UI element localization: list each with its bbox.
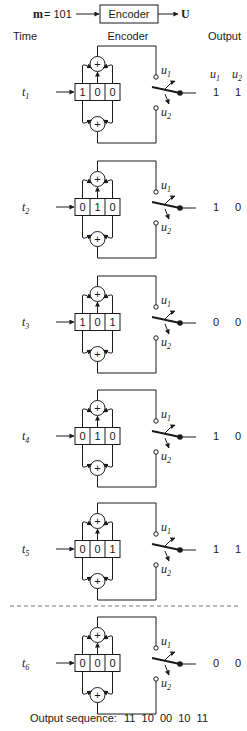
rotation-arrow-icon <box>165 652 175 660</box>
u2-terminal <box>154 221 158 225</box>
time-step-block: t1100++u1u211 <box>22 46 241 143</box>
register-cell: 1 <box>94 201 100 213</box>
u2-terminal <box>154 563 158 567</box>
u2-column-label: u2 <box>232 67 242 83</box>
u2-wire <box>98 454 157 487</box>
time-label: t5 <box>22 542 29 558</box>
rotation-arrow-icon <box>165 324 169 334</box>
rotation-arrow-icon <box>165 538 175 546</box>
header-encoder-flow: m = 101 Encoder U <box>33 5 190 23</box>
u2-wire <box>98 340 157 373</box>
plus-icon: + <box>94 689 100 701</box>
plus-icon: + <box>94 348 100 360</box>
output-sequence-value: 11 10 00 10 11 <box>124 712 208 724</box>
plus-icon: + <box>94 173 100 185</box>
register-cell: 0 <box>79 657 85 669</box>
output-u1-value: 1 <box>213 86 219 98</box>
rotation-arrow-icon <box>165 311 175 319</box>
u1-terminal-label: u1 <box>161 293 171 309</box>
u2-terminal-label: u2 <box>161 676 171 692</box>
register-cell: 0 <box>79 543 85 555</box>
plus-icon: + <box>94 118 100 130</box>
output-u1-value: 1 <box>213 430 219 442</box>
rotation-arrow-icon <box>165 665 169 675</box>
rotation-arrow-icon <box>165 81 175 89</box>
u1-terminal <box>154 646 158 650</box>
column-headers: Time Encoder Output u1 u2 <box>13 30 242 83</box>
register-cell: 0 <box>79 430 85 442</box>
encoder-column-header: Encoder <box>108 30 149 42</box>
output-u1-value: 0 <box>213 316 219 328</box>
rotation-arrow-icon <box>165 209 169 219</box>
u1-column-label: u1 <box>210 67 220 83</box>
output-u1-value: 0 <box>213 657 219 669</box>
output-sequence-label: Output sequence: <box>30 712 117 724</box>
u1-terminal-label: u1 <box>161 407 171 423</box>
u1-terminal <box>154 419 158 423</box>
rotation-arrow-icon <box>165 551 169 561</box>
u2-wire <box>98 681 157 714</box>
u1-wire <box>98 503 157 532</box>
plus-icon: + <box>94 462 100 474</box>
time-step-block: t5001++u1u211 <box>22 503 241 600</box>
output-u1-value: 1 <box>213 201 219 213</box>
plus-icon: + <box>94 233 100 245</box>
register-cell: 1 <box>79 316 85 328</box>
u2-wire <box>98 110 157 143</box>
register-cell: 0 <box>94 86 100 98</box>
time-label: t2 <box>22 200 29 216</box>
register-cell: 1 <box>79 86 85 98</box>
register-cell: 0 <box>109 430 115 442</box>
u2-terminal <box>154 677 158 681</box>
output-u2-value: 0 <box>235 430 241 442</box>
register-cell: 0 <box>94 316 100 328</box>
u1-wire <box>98 617 157 646</box>
u1-terminal <box>154 305 158 309</box>
output-u1-value: 1 <box>213 543 219 555</box>
output-u2-value: 0 <box>235 657 241 669</box>
plus-icon: + <box>94 515 100 527</box>
u2-terminal-label: u2 <box>161 220 171 236</box>
register-cell: 0 <box>109 86 115 98</box>
u1-terminal-label: u1 <box>161 520 171 536</box>
register-cell: 0 <box>109 201 115 213</box>
plus-icon: + <box>94 629 100 641</box>
u1-terminal <box>154 75 158 79</box>
rotation-arrow-icon <box>165 438 169 448</box>
convolutional-encoder-diagram: m = 101 Encoder U Time Encoder Output u1… <box>0 0 247 731</box>
u1-terminal-label: u1 <box>161 63 171 79</box>
output-u2-value: 0 <box>235 316 241 328</box>
u1-terminal <box>154 532 158 536</box>
output-symbol: U <box>181 7 190 21</box>
time-steps: t1100++u1u211t2010++u1u210t3101++u1u200t… <box>22 46 241 714</box>
register-cell: 1 <box>109 316 115 328</box>
rotation-arrow-icon <box>165 94 169 104</box>
time-step-block: t6000++u1u200 <box>22 617 241 714</box>
plus-icon: + <box>94 402 100 414</box>
u1-wire <box>98 276 157 305</box>
register-cell: 1 <box>94 430 100 442</box>
u1-terminal-label: u1 <box>161 178 171 194</box>
plus-icon: + <box>94 575 100 587</box>
plus-icon: + <box>94 58 100 70</box>
register-cell: 0 <box>94 657 100 669</box>
u2-terminal-label: u2 <box>161 335 171 351</box>
output-u2-value: 0 <box>235 201 241 213</box>
u1-wire <box>98 390 157 419</box>
u2-terminal <box>154 450 158 454</box>
time-label: t3 <box>22 315 29 331</box>
message-label: m <box>33 7 43 21</box>
u2-terminal-label: u2 <box>161 105 171 121</box>
register-cell: 1 <box>109 543 115 555</box>
rotation-arrow-icon <box>165 196 175 204</box>
u2-terminal <box>154 336 158 340</box>
u1-wire <box>98 46 157 75</box>
u2-terminal-label: u2 <box>161 562 171 578</box>
u1-wire <box>98 161 157 190</box>
plus-icon: + <box>94 288 100 300</box>
time-step-block: t4010++u1u210 <box>22 390 241 487</box>
encoder-box-label: Encoder <box>109 8 150 20</box>
register-cell: 0 <box>109 657 115 669</box>
u2-wire <box>98 567 157 600</box>
u2-wire <box>98 225 157 258</box>
